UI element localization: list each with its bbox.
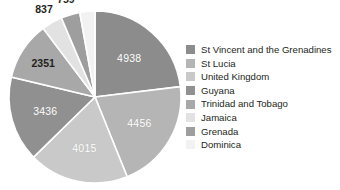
legend-item-label: Grenada — [201, 127, 238, 137]
legend-item-label: Guyana — [201, 86, 235, 96]
legend-item-label: Dominica — [201, 140, 241, 150]
legend-swatch-icon — [186, 59, 195, 68]
legend-item[interactable]: Trinidad and Tobago — [186, 97, 340, 111]
legend-item[interactable]: St Lucia — [186, 57, 340, 71]
pie-slice-value-label: 3436 — [33, 105, 57, 117]
legend-item[interactable]: Jamaica — [186, 111, 340, 125]
legend-swatch-icon — [186, 100, 195, 109]
pie-slice-value-label: 4456 — [127, 117, 151, 129]
legend-swatch-icon — [186, 86, 195, 95]
legend-item-label: Jamaica — [201, 113, 237, 123]
legend-swatch-icon — [186, 113, 195, 122]
legend-item-label: St Lucia — [201, 59, 236, 69]
pie-slice-value-label: 837 — [35, 3, 53, 15]
legend-item[interactable]: Dominica — [186, 138, 340, 152]
pie-slice-value-label: 2351 — [32, 57, 55, 69]
pie-chart-svg — [0, 0, 190, 190]
legend-swatch-icon — [186, 140, 195, 149]
pie-slice-value-label: 4015 — [72, 142, 96, 154]
legend-item[interactable]: St Vincent and the Grenadines — [186, 43, 340, 57]
legend-item[interactable]: Grenada — [186, 125, 340, 139]
legend-item[interactable]: Guyana — [186, 84, 340, 98]
legend-item-label: Trinidad and Tobago — [201, 99, 288, 109]
pie-slice-value-label: 607 — [77, 0, 95, 1]
pie-chart-figure: 49384456401534362351837759607 St Vincent… — [0, 0, 340, 190]
legend-swatch-icon — [186, 127, 195, 136]
pie-chart-plot-area: 49384456401534362351837759607 — [0, 0, 190, 190]
legend-item-label: United Kingdom — [201, 72, 269, 82]
chart-legend: St Vincent and the GrenadinesSt LuciaUni… — [186, 43, 340, 152]
pie-slice-value-label: 4938 — [117, 52, 141, 64]
legend-swatch-icon — [186, 72, 195, 81]
pie-slice-value-label: 759 — [57, 0, 75, 5]
legend-swatch-icon — [186, 45, 195, 54]
legend-item-label: St Vincent and the Grenadines — [201, 45, 332, 55]
legend-item[interactable]: United Kingdom — [186, 70, 340, 84]
